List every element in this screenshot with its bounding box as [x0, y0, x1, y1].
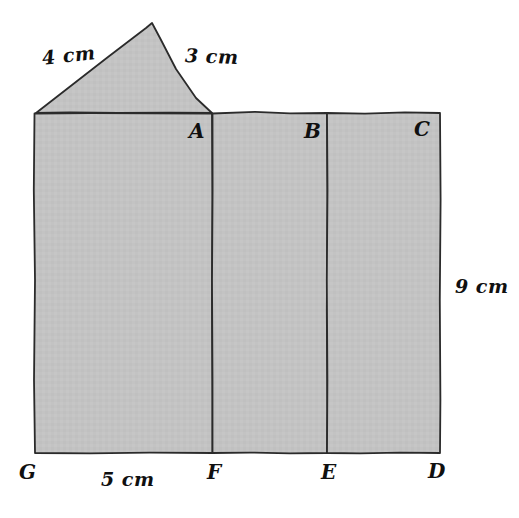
rectangle-b: [212, 112, 328, 454]
vertex-label-e: E: [321, 462, 337, 482]
region-label-a: A: [189, 121, 205, 141]
vertex-label-f: F: [207, 462, 222, 482]
geometry-diagram: A B C G F E D 4 cm 3 cm 5 cm 9 cm: [0, 0, 519, 518]
measure-label-base-left: 5 cm: [101, 470, 155, 489]
vertex-label-d: D: [428, 461, 446, 481]
measure-label-right-height: 9 cm: [455, 277, 509, 296]
measure-label-roof-right: 3 cm: [185, 46, 239, 67]
figure-svg: [0, 0, 519, 518]
vertex-label-g: G: [19, 462, 37, 482]
rectangle-a: [34, 113, 213, 453]
rectangle-c: [327, 112, 441, 453]
triangle-roof: [36, 23, 212, 113]
region-label-c: C: [414, 119, 430, 139]
region-label-b: B: [304, 121, 321, 141]
